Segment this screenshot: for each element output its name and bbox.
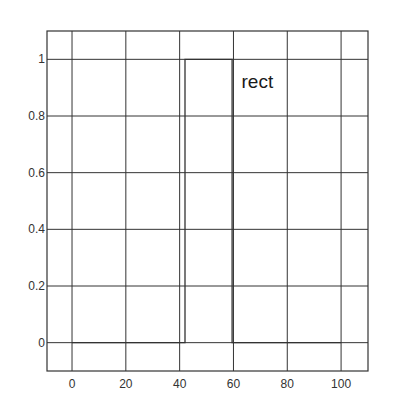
y-tick-label: 0.4 xyxy=(28,222,45,236)
x-tick-label: 100 xyxy=(331,377,351,391)
y-axis-tick-labels: 00.20.40.60.81 xyxy=(28,52,45,349)
annotation-label: rect xyxy=(242,71,274,92)
x-axis-tick-labels: 020406080100 xyxy=(69,377,352,391)
series-line-rect xyxy=(72,59,341,342)
rect-series-line xyxy=(72,59,341,342)
x-tick-label: 60 xyxy=(227,377,241,391)
x-tick-label: 80 xyxy=(281,377,295,391)
rect-function-chart: 020406080100 00.20.40.60.81 rect xyxy=(0,0,394,409)
x-tick-label: 40 xyxy=(173,377,187,391)
grid-lines xyxy=(47,31,368,371)
annotations: rect xyxy=(242,71,274,92)
y-tick-label: 0 xyxy=(38,336,45,350)
y-tick-label: 0.8 xyxy=(28,109,45,123)
y-tick-label: 1 xyxy=(38,52,45,66)
y-tick-label: 0.2 xyxy=(28,279,45,293)
y-tick-label: 0.6 xyxy=(28,166,45,180)
x-tick-label: 0 xyxy=(69,377,76,391)
x-tick-label: 20 xyxy=(119,377,133,391)
plot-frame xyxy=(47,31,368,371)
